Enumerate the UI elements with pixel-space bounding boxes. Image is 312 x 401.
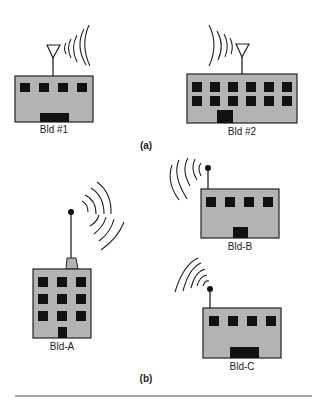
label-blda: Bld-A	[50, 341, 74, 352]
building-bld2	[187, 25, 297, 123]
label-bldc: Bld-C	[229, 361, 254, 372]
radio-waves-icon	[170, 158, 201, 200]
caption-a: (a)	[140, 140, 152, 151]
ball-antenna-icon	[205, 165, 211, 189]
caption-b: (b)	[140, 373, 153, 384]
building-bld1	[15, 25, 93, 122]
triangle-antenna-icon	[236, 44, 249, 74]
label-bld2: Bld #2	[228, 126, 256, 137]
radio-waves-icon	[82, 182, 124, 250]
building-bldc	[175, 258, 281, 358]
label-bld1: Bld #1	[40, 124, 68, 135]
label-bldb: Bld-B	[228, 241, 252, 252]
radio-waves-icon	[175, 258, 209, 292]
radio-waves-icon	[65, 25, 91, 66]
wireless-buildings-diagram	[0, 0, 312, 401]
triangle-antenna-icon	[47, 45, 60, 76]
radio-waves-icon	[209, 25, 232, 66]
ball-antenna-icon	[66, 209, 78, 269]
building-bldb	[170, 158, 279, 238]
ball-antenna-icon	[207, 286, 213, 308]
building-blda	[33, 182, 124, 338]
